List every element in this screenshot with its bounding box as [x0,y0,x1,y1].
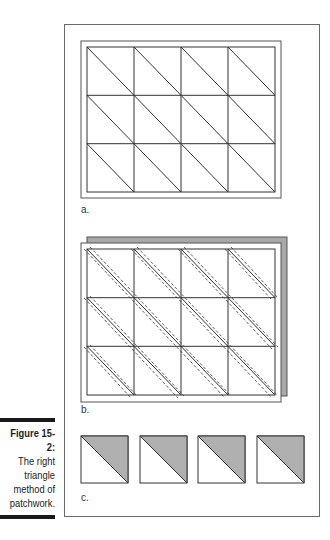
panel-b-label: b. [81,404,89,415]
caption-line: triangle [8,468,55,482]
figure-caption: Figure 15-2: The right triangle method o… [0,418,55,519]
caption-bottom-bar [0,515,55,519]
panel-a-label: a. [81,204,89,215]
half-square-triangle-3 [198,436,245,483]
panel-c-label: c. [81,492,89,503]
panel-c-triangles [81,436,304,483]
caption-line: method of [8,482,55,496]
half-square-triangle-4 [257,436,304,483]
caption-line: The right [8,454,55,468]
half-square-triangle-1 [81,436,128,483]
panel-a-grid [81,41,281,198]
half-square-triangle-2 [140,436,187,483]
caption-line: patchwork. [8,496,55,510]
panel-b-grid [81,237,287,402]
figure-number: Figure 15-2: [8,426,55,454]
